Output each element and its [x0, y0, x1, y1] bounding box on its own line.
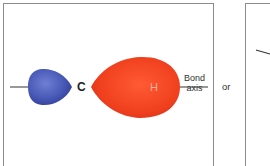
bond-axis-label: Bond axis [184, 73, 205, 93]
hydrogen-label: H [150, 81, 158, 93]
small-orbital-lobe [28, 69, 72, 105]
bond-axis-label-line2: axis [184, 83, 205, 93]
or-connector-label: or [222, 81, 230, 92]
bond-axis-line-partial [256, 50, 270, 54]
large-orbital-lobe [91, 57, 180, 118]
bond-axis-label-line1: Bond [184, 73, 205, 83]
carbon-label: C [77, 80, 86, 94]
